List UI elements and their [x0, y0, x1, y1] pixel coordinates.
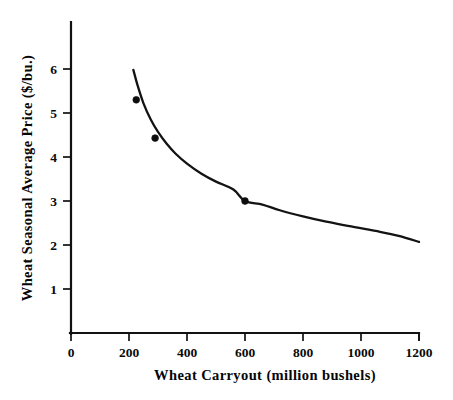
chart-canvas: 123456 020040060080010001200 Wheat Carry…: [0, 0, 453, 400]
x-axis-label: Wheat Carryout (million bushels): [154, 367, 376, 384]
x-tick-label-200: 200: [119, 345, 140, 360]
y-tick-label-2: 2: [50, 238, 57, 253]
y-tick-label-6: 6: [50, 62, 57, 77]
y-tick-label-5: 5: [50, 106, 57, 121]
y-axis-label: Wheat Seasonal Average Price ($/bu.): [19, 55, 36, 302]
chart-background: [0, 0, 453, 400]
x-tick-label-1200: 1200: [406, 345, 433, 360]
x-tick-label-400: 400: [177, 345, 198, 360]
x-tick-label-600: 600: [235, 345, 256, 360]
x-tick-label-1000: 1000: [348, 345, 375, 360]
x-tick-label-800: 800: [293, 345, 314, 360]
data-point-1: [152, 135, 159, 142]
data-point-2: [242, 198, 249, 205]
data-point-0: [133, 96, 140, 103]
y-tick-label-3: 3: [50, 194, 57, 209]
x-tick-label-0: 0: [68, 345, 75, 360]
y-tick-label-1: 1: [50, 282, 57, 297]
y-tick-label-4: 4: [50, 150, 57, 165]
chart-figure: 123456 020040060080010001200 Wheat Carry…: [0, 0, 453, 400]
